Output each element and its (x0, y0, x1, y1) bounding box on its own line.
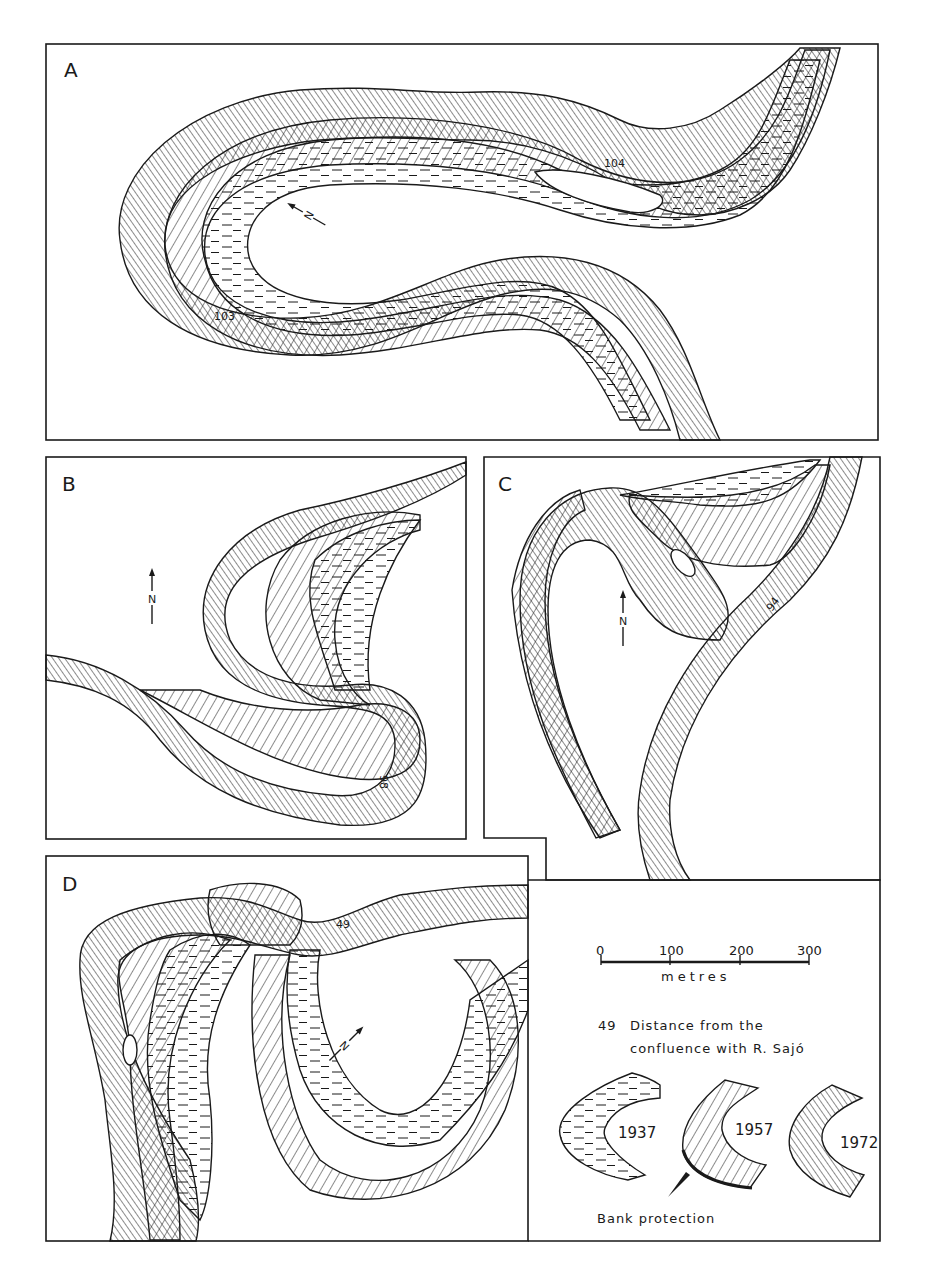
north-arrow-a: N (284, 198, 328, 230)
scale-unit: metres (661, 969, 731, 984)
north-arrow-b: N (146, 568, 158, 624)
panel-a-letter: A (64, 58, 78, 82)
km-label-104: 104 (604, 157, 625, 170)
scale-tick-100: 100 (659, 943, 684, 958)
panel-d: D 49 N (46, 856, 528, 1241)
svg-text:N: N (619, 615, 627, 628)
panel-c-letter: C (498, 472, 512, 496)
panel-a: A 104 103 N (46, 44, 878, 440)
scale-tick-200: 200 (729, 943, 754, 958)
distance-note-number: 49 (598, 1018, 617, 1033)
figure-canvas: A 104 103 N B 98 (0, 0, 927, 1285)
svg-text:N: N (148, 593, 156, 606)
panel-b-letter: B (62, 472, 76, 496)
km-label-49: 49 (336, 918, 350, 931)
legend-year-1937: 1937 (618, 1124, 656, 1142)
north-arrow-c: N (617, 590, 629, 646)
km-label-103: 103 (214, 310, 235, 323)
legend: 0 100 200 300 metres 49 Distance from th… (528, 880, 880, 1241)
scale-bar: 0 100 200 300 metres (596, 943, 822, 984)
island-d (123, 1035, 137, 1065)
panel-c: C 94 N (484, 457, 880, 880)
distance-note-line1: Distance from the (630, 1018, 764, 1033)
legend-year-1957: 1957 (735, 1121, 773, 1139)
legend-year-1972: 1972 (840, 1134, 878, 1152)
bank-protection-pointer-icon (668, 1172, 690, 1197)
north-arrow-d: N (325, 1022, 367, 1064)
panel-d-letter: D (62, 872, 77, 896)
km-label-98: 98 (377, 775, 390, 789)
scale-tick-0: 0 (596, 943, 604, 958)
bank-protection-label: Bank protection (597, 1211, 715, 1226)
panel-b: B 98 N (46, 457, 466, 839)
distance-note-line2: confluence with R. Sajó (630, 1041, 805, 1056)
scale-tick-300: 300 (797, 943, 822, 958)
